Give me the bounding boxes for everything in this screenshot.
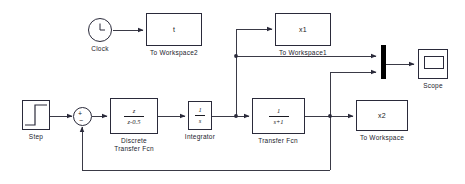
integrator-numerator: 1 [195,106,204,114]
discrete-tf-fraction-bar [124,116,144,117]
scope-label: Scope [410,82,456,90]
to-workspace-variable: x2 [378,112,386,119]
junction-dot-x1-mux [234,54,238,58]
to-workspace-label: To Workspace [350,134,414,142]
discrete-tf-denominator: z-0.5 [125,118,144,126]
signal-wires [0,0,465,184]
transfer-fcn-label: Transfer Fcn [246,137,310,145]
discrete-transfer-fcn-expression: z z-0.5 [124,107,144,126]
clock-face-icon [89,19,111,41]
sum-plus-sign: + [78,110,82,117]
discrete-tf-numerator: z [130,107,139,115]
integrator-block[interactable]: 1 s [188,101,212,130]
sum-minus-sign: − [79,117,83,124]
to-workspace2-block[interactable]: t [146,13,202,46]
to-workspace2-label: To Workspace2 [140,49,208,57]
step-signal-icon [23,101,49,129]
transfer-fcn-expression: 1 s+1 [269,107,289,126]
integrator-fraction-bar [195,115,205,116]
transfer-fcn-numerator: 1 [274,107,283,115]
discrete-transfer-fcn-block[interactable]: z z-0.5 [110,98,158,134]
discrete-transfer-fcn-label: Discrete Transfer Fcn [102,137,166,152]
mux-block[interactable] [381,45,386,79]
to-workspace1-block[interactable]: x1 [275,13,331,46]
integrator-expression: 1 s [195,106,205,125]
to-workspace-block[interactable]: x2 [356,100,408,131]
to-workspace2-variable: t [173,26,175,33]
step-block[interactable] [22,100,50,130]
junction-dot-x2 [328,114,332,118]
transfer-fcn-denominator: s+1 [270,118,286,126]
clock-block[interactable] [88,18,112,42]
to-workspace1-variable: x1 [299,26,307,33]
transfer-fcn-block[interactable]: 1 s+1 [252,98,305,134]
clock-label: Clock [74,45,126,53]
step-label: Step [12,133,60,141]
integrator-denominator: s [196,117,205,125]
simulink-canvas[interactable]: Clock t To Workspace2 x1 To Workspace1 S… [0,0,465,184]
integrator-label: Integrator [174,133,226,141]
to-workspace1-label: To Workspace1 [269,49,337,57]
scope-screen-icon [424,56,444,69]
scope-block[interactable] [418,49,448,79]
transfer-fcn-fraction-bar [269,116,289,117]
junction-dot-x1 [234,114,238,118]
